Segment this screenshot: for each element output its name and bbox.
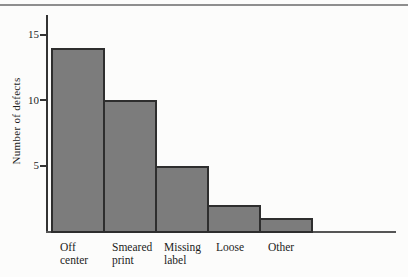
- y-tick-label: 10: [14, 94, 39, 107]
- figure: Number of defects 51015 OffcenterSmeared…: [0, 0, 408, 277]
- y-tick-mark: [40, 34, 47, 36]
- category-label-off-center: Offcenter: [51, 241, 103, 267]
- category-label-missing-label: Missinglabel: [155, 241, 207, 267]
- top-rule: [0, 4, 408, 6]
- y-tick-label: 15: [14, 28, 39, 41]
- y-tick-label: 5: [14, 159, 39, 172]
- y-axis-line: [46, 15, 48, 233]
- bar-missing-label: [155, 166, 209, 234]
- bar-smeared-print: [103, 100, 157, 233]
- bar-other: [259, 218, 313, 233]
- y-tick-mark: [40, 99, 47, 101]
- category-label-loose: Loose: [207, 241, 259, 254]
- category-label-other: Other: [259, 241, 311, 254]
- y-axis-title: Number of defects: [10, 78, 22, 165]
- bar-loose: [207, 205, 261, 233]
- bar-off-center: [51, 48, 105, 233]
- category-label-smeared-print: Smearedprint: [103, 241, 155, 267]
- y-tick-mark: [40, 165, 47, 167]
